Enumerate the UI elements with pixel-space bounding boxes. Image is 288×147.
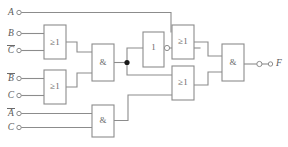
- wire-and2-to-or4: [114, 95, 172, 121]
- terminal-cbar[interactable]: [17, 48, 21, 52]
- label-input-cbar: C: [8, 45, 15, 55]
- terminal-b[interactable]: [17, 31, 21, 35]
- gate-and-3[interactable]: &: [222, 44, 262, 81]
- gate-not-1[interactable]: 1: [143, 32, 172, 67]
- wire-or1-to-and1: [66, 42, 92, 52]
- wire-or4-to-and3: [194, 72, 222, 85]
- circuit-canvas: ≥1 ≥1 & & 1: [0, 0, 288, 147]
- label-input-bbar: B: [8, 73, 14, 83]
- wire-junction-to-not1: [127, 48, 143, 63]
- label-input-c2: C: [8, 90, 15, 100]
- label-output-f: F: [275, 58, 282, 68]
- or-4-label: ≥1: [178, 77, 187, 87]
- and-3-output-bubble: [257, 61, 262, 66]
- gate-and-1[interactable]: &: [92, 44, 114, 81]
- label-input-abar: A: [7, 108, 14, 118]
- or-2-label: ≥1: [50, 81, 59, 91]
- gate-or-4[interactable]: ≥1: [172, 66, 194, 100]
- label-input-c3: C: [8, 122, 15, 132]
- terminal-f[interactable]: [268, 62, 272, 66]
- or-3-label: ≥1: [178, 36, 187, 46]
- label-input-a: A: [7, 7, 14, 17]
- terminal-abar[interactable]: [17, 111, 21, 115]
- and-3-label: &: [229, 57, 236, 67]
- not-1-label: 1: [151, 42, 156, 52]
- label-input-b: B: [8, 28, 14, 38]
- terminal-a[interactable]: [17, 10, 21, 14]
- or-1-label: ≥1: [50, 37, 59, 47]
- terminal-bbar[interactable]: [17, 76, 21, 80]
- junction-dot: [124, 60, 129, 65]
- logic-circuit-figure: ≥1 ≥1 & & 1: [0, 0, 288, 147]
- gate-or-3[interactable]: ≥1: [172, 25, 194, 59]
- gate-and-2[interactable]: &: [92, 105, 114, 137]
- gate-or-2[interactable]: ≥1: [44, 70, 66, 104]
- wire-or2-to-and1: [66, 73, 92, 87]
- wire-or3-to-and3: [194, 42, 222, 56]
- terminal-c3[interactable]: [17, 125, 21, 129]
- not-1-output-bubble: [164, 45, 169, 50]
- and-1-label: &: [99, 57, 106, 67]
- gate-or-1[interactable]: ≥1: [44, 25, 66, 59]
- and-2-label: &: [99, 115, 106, 125]
- terminal-c2[interactable]: [17, 93, 21, 97]
